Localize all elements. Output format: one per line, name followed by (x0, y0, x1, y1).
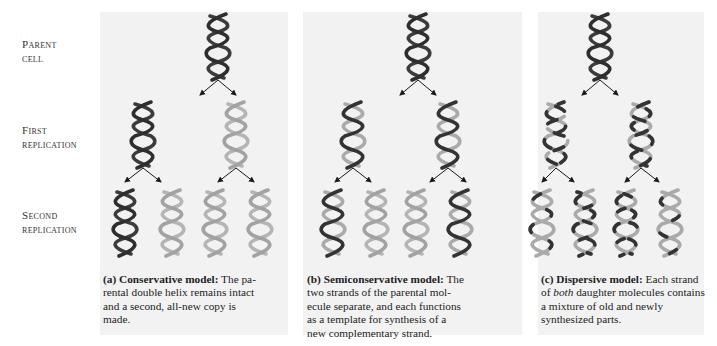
caption-semiconservative: (b) Semiconservative model: The two stra… (307, 273, 522, 340)
helix-gen2-new (364, 190, 388, 256)
arrow-icon (418, 80, 436, 95)
caption-text: new complementary strand. (307, 327, 432, 339)
caption-text: Each strand (645, 273, 698, 285)
arrow-icon (448, 168, 466, 182)
helix-gen2-new (404, 190, 428, 256)
caption-title: (b) Semiconservative model: (307, 273, 444, 285)
helix-gen2-hybrid (321, 190, 345, 256)
helix-gen2-new (203, 190, 227, 256)
helix-parent (588, 14, 612, 80)
caption-text: daughter molecules contains (573, 286, 704, 298)
helix-gen1-mixed (629, 102, 653, 168)
arrow-icon (542, 168, 556, 182)
helix-parent (406, 14, 430, 80)
caption-text: ecule separate, and each functions (307, 300, 461, 312)
arrow-icon (625, 168, 641, 182)
arrow-icon (218, 168, 236, 182)
caption-conservative: (a) Conservative model: The pa- rental d… (103, 273, 288, 327)
caption-text: and a second, all-new copy is (103, 300, 236, 312)
helix-gen2-hybrid (448, 190, 472, 256)
caption-title: (c) Dispersive model: (541, 273, 643, 285)
helix-gen1-old (131, 102, 155, 168)
helix-gen2-mixed (573, 190, 597, 256)
arrow-icon (335, 168, 353, 182)
caption-text: of (541, 286, 553, 298)
caption-text: made. (103, 313, 130, 325)
caption-text: rental double helix remains intact (103, 286, 254, 298)
helix-gen1-mixed (544, 102, 568, 168)
arrow-icon (582, 80, 600, 95)
panel-c-helices (530, 14, 682, 256)
caption-emphasis: both (553, 286, 573, 298)
panel-a-helices (113, 14, 272, 256)
caption-text: as a template for synthesis of a (307, 313, 446, 325)
helix-gen2-new (160, 190, 184, 256)
helix-gen2-mixed (530, 190, 554, 256)
arrow-icon (353, 168, 371, 182)
arrow-icon (600, 80, 618, 95)
helix-gen1-hybrid (436, 102, 460, 168)
helix-gen1-new (224, 102, 248, 168)
arrow-icon (218, 80, 236, 95)
arrow-icon (641, 168, 659, 182)
caption-text: a mixture of old and newly (541, 300, 663, 312)
helix-parent (206, 14, 230, 80)
helix-gen2-mixed (658, 190, 682, 256)
arrow-icon (143, 168, 161, 182)
caption-text: synthesized parts. (541, 313, 621, 325)
arrow-icon (556, 168, 574, 182)
arrow-icon (400, 80, 418, 95)
helix-gen2-new (248, 190, 272, 256)
helix-gen2-old (113, 190, 137, 256)
helix-gen1-hybrid (341, 102, 365, 168)
panel-b-helices (321, 14, 472, 256)
arrow-icon (125, 168, 143, 182)
caption-dispersive: (c) Dispersive model: Each strand of bot… (541, 273, 707, 327)
caption-title: (a) Conservative model: (103, 273, 218, 285)
arrow-icon (430, 168, 448, 182)
arrow-icon (236, 168, 254, 182)
caption-text: two strands of the parental mol- (307, 286, 451, 298)
caption-text: The (446, 273, 464, 285)
arrow-icon (200, 80, 218, 95)
caption-text: The pa- (221, 273, 256, 285)
helix-gen2-mixed (614, 190, 638, 256)
